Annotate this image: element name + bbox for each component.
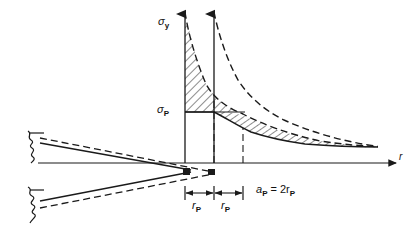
rp-left-subscript: P: [196, 205, 201, 214]
sigma-y-axis-label: σy: [158, 16, 169, 30]
crack-flank-lower-dashed: [40, 174, 213, 208]
sigma-p-level-label: σP: [157, 104, 169, 118]
r-axis-label: r: [399, 152, 402, 162]
break-symbol-lower: [28, 187, 35, 223]
effective-crack-tip-marker: [208, 169, 215, 175]
diagram-canvas: [0, 0, 418, 232]
crack-flank-upper-dashed: [40, 138, 213, 172]
dimension-label-ap-relation: aP = 2rP: [256, 184, 295, 198]
ap-equation-rest-subscript: P: [290, 189, 295, 198]
sigma-p-symbol: σ: [157, 103, 164, 115]
break-symbol-upper: [28, 131, 34, 163]
sigma-y-subscript: y: [165, 21, 169, 30]
hatched-region-left: [180, 8, 250, 118]
ap-equation-rest: = 2r: [267, 183, 289, 195]
figure-container: σy σP r rP rP aP = 2rP: [0, 0, 418, 232]
crack-flank-upper-solid: [40, 143, 191, 170]
crack-tip-marker: [183, 168, 190, 175]
sigma-y-symbol: σ: [158, 15, 165, 27]
dimension-label-rp-left: rP: [192, 200, 201, 214]
crack-flank-lower-solid: [40, 172, 191, 201]
sigma-p-subscript: P: [164, 109, 169, 118]
dimension-label-rp-right: rP: [221, 200, 230, 214]
rp-right-subscript: P: [225, 205, 230, 214]
